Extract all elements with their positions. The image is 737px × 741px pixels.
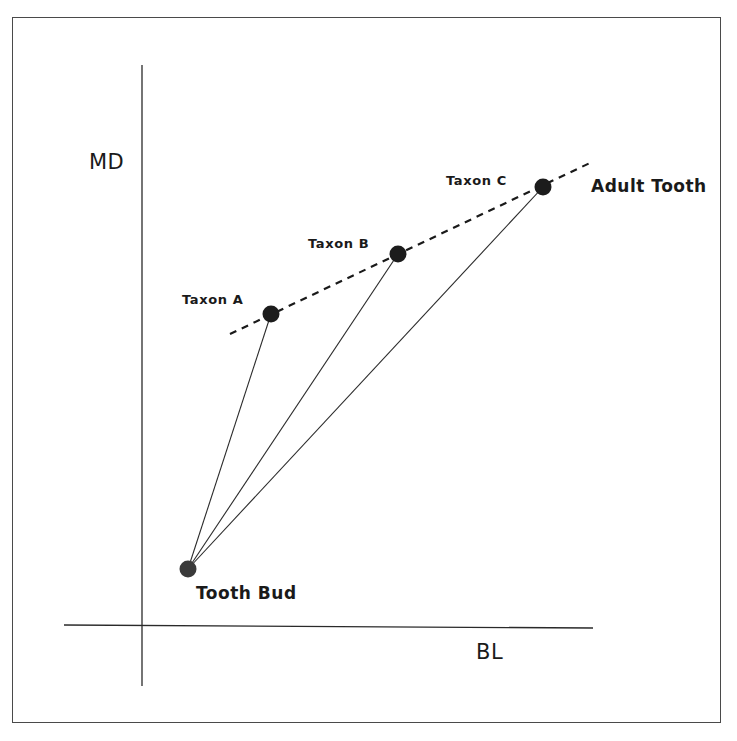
x-axis-label: BL: [476, 642, 503, 663]
label-tooth-bud: Tooth Bud: [196, 585, 297, 602]
point-taxon-a: [263, 306, 280, 323]
label-taxon-c: Taxon C: [446, 174, 507, 187]
diagram-canvas: [0, 0, 737, 741]
connector-bud-to-taxon-a: [188, 314, 271, 569]
point-taxon-b: [390, 246, 407, 263]
label-taxon-a: Taxon A: [182, 293, 243, 306]
label-adult-tooth: Adult Tooth: [591, 178, 707, 195]
x-axis-bl: [64, 625, 593, 628]
label-taxon-b: Taxon B: [308, 237, 369, 250]
point-tooth-bud: [180, 561, 197, 578]
y-axis-label: MD: [89, 152, 124, 173]
point-taxon-c: [535, 179, 552, 196]
